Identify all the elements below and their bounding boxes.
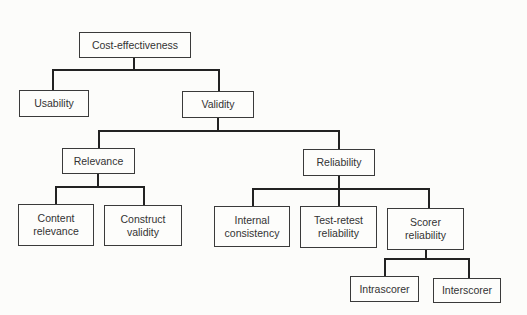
connector-to-reliability [338, 130, 340, 150]
connector-scorer-bar [384, 258, 470, 260]
connector-to-internal-consistency [252, 188, 254, 207]
node-intrascorer: Intrascorer [350, 276, 419, 302]
node-cost-effectiveness: Cost-effectiveness [79, 32, 191, 58]
connector-to-construct-validity [143, 186, 145, 206]
node-internal-consistency: Internal consistency [214, 206, 290, 247]
node-construct-validity: Construct validity [104, 205, 182, 246]
node-usability: Usability [19, 90, 89, 117]
connector-reliability-bar [252, 188, 430, 190]
connector-to-usability [52, 69, 54, 91]
connector-to-scorer-reliability [428, 188, 430, 209]
node-relevance: Relevance [62, 148, 135, 174]
connector-validity-bar [98, 130, 340, 132]
node-scorer-reliability: Scorer reliability [387, 208, 464, 250]
node-test-retest-reliability: Test-retest reliability [300, 206, 377, 248]
connector-to-test-retest [338, 188, 340, 207]
connector-to-interscorer [468, 258, 470, 279]
connector-cost-bar [52, 69, 220, 71]
connector-to-validity [218, 69, 220, 92]
tree-diagram: Cost-effectiveness Usability Validity Re… [0, 0, 527, 315]
node-content-relevance: Content relevance [18, 204, 94, 246]
node-validity: Validity [182, 91, 254, 118]
connector-relevance-bar [55, 186, 145, 188]
connector-to-content-relevance [55, 186, 57, 205]
node-interscorer: Interscorer [433, 278, 501, 303]
connector-to-relevance [98, 130, 100, 149]
connector-to-intrascorer [384, 258, 386, 277]
node-reliability: Reliability [303, 149, 375, 176]
